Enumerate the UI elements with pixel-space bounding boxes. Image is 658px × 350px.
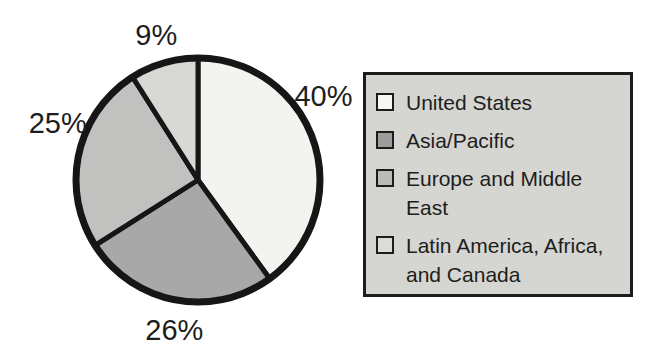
legend-item-asia-pacific: Asia/Pacific	[376, 126, 622, 155]
legend: United StatesAsia/PacificEurope and Midd…	[363, 72, 633, 297]
figure-canvas: 40%26%25%9% United StatesAsia/PacificEur…	[0, 0, 658, 350]
legend-item-europe-and-middle-east: Europe and Middle East	[376, 164, 622, 222]
legend-swatch-united-states	[376, 93, 394, 111]
legend-label: Asia/Pacific	[406, 126, 515, 155]
legend-swatch-europe-and-middle-east	[376, 169, 394, 187]
pie-label-europe-and-middle-east: 25%	[29, 107, 87, 139]
legend-label: Latin America, Africa, and Canada	[406, 231, 616, 289]
legend-label: United States	[406, 88, 532, 117]
pie-label-latin-america-africa-and-canada: 9%	[135, 19, 177, 51]
legend-items: United StatesAsia/PacificEurope and Midd…	[376, 88, 622, 289]
pie-chart: 40%26%25%9%	[0, 0, 360, 350]
legend-item-latin-america-africa-and-canada: Latin America, Africa, and Canada	[376, 231, 622, 289]
legend-item-united-states: United States	[376, 88, 622, 117]
pie-label-united-states: 40%	[294, 80, 352, 112]
legend-label: Europe and Middle East	[406, 164, 616, 222]
pie-chart-area: 40%26%25%9%	[0, 0, 360, 350]
legend-swatch-latin-america-africa-and-canada	[376, 236, 394, 254]
legend-swatch-asia-pacific	[376, 131, 394, 149]
pie-label-asia-pacific: 26%	[145, 314, 203, 346]
